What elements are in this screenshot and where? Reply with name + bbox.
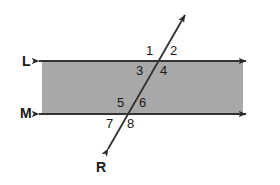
angle-label-3: 3 [136,64,143,77]
angle-label-6: 6 [139,96,146,109]
angle-label-7: 7 [106,117,113,130]
diagram-canvas [0,0,280,185]
line-label-L: L [22,54,31,68]
angle-label-4: 4 [160,64,167,77]
line-label-M: M [20,106,32,120]
angle-label-5: 5 [117,96,124,109]
angle-label-1: 1 [146,44,153,57]
line-label-R: R [96,160,106,174]
angle-label-8: 8 [127,117,134,130]
geometry-diagram: L M R 1 2 3 4 5 6 7 8 [0,0,280,185]
angle-label-2: 2 [170,44,177,57]
